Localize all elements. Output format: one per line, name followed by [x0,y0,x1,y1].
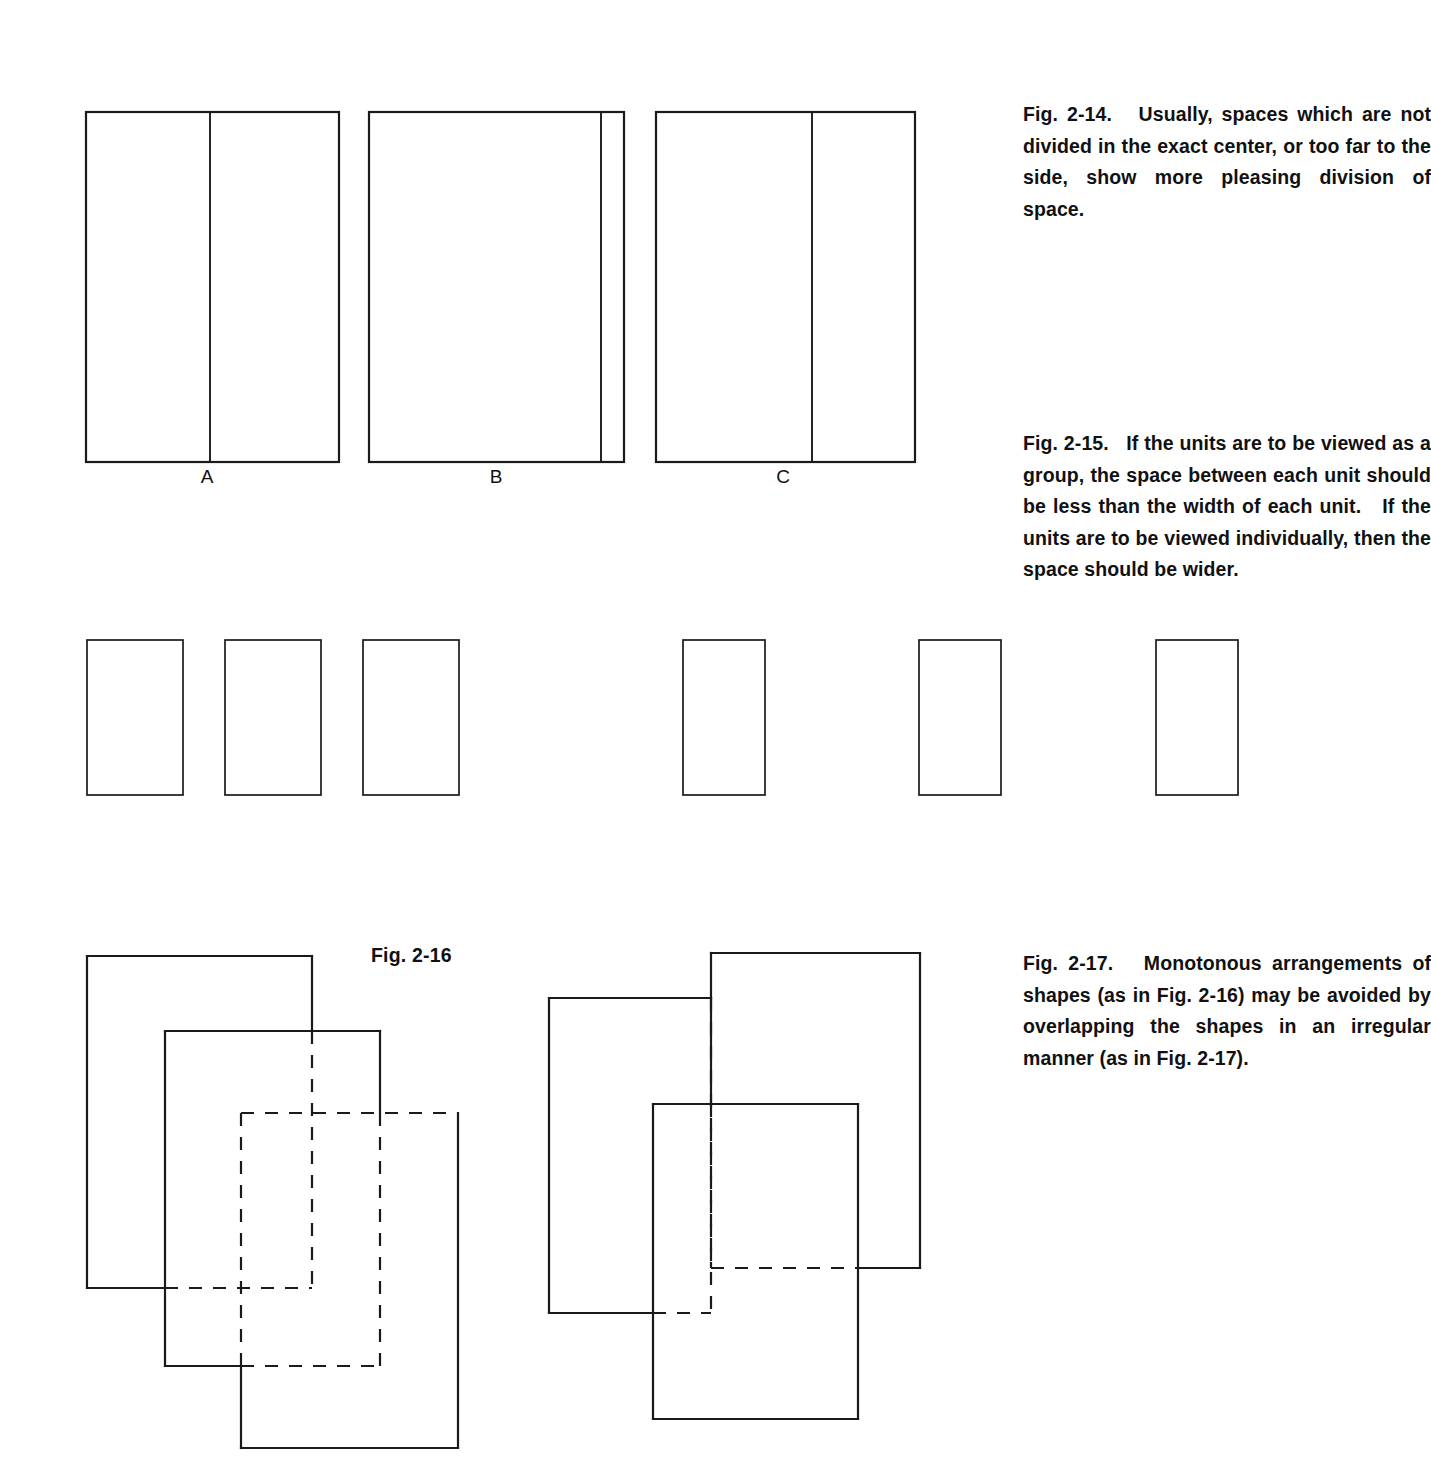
fig-2-15-group-right [683,640,1238,795]
fig-2-15-unit [683,640,765,795]
fig-2-14-label-c: C [763,466,803,488]
fig-2-14-label-b: B [476,466,516,488]
fig-2-16-label: Fig. 2-16 [371,944,452,967]
fig-2-15-unit [919,640,1001,795]
caption-fig-2-15: Fig. 2-15. If the units are to be viewed… [1023,428,1431,586]
fig-2-14-panel-c-rect [656,112,915,462]
fig-2-14-panel-a-rect [86,112,339,462]
caption-fig-2-14: Fig. 2-14. Usually, spaces which are not… [1023,99,1431,225]
fig-2-15-unit [87,640,183,795]
fig-2-15-unit [1156,640,1238,795]
caption-fig-2-17: Fig. 2-17. Monotonous arrangements of sh… [1023,948,1431,1074]
fig-2-14-group [86,112,915,462]
fig-2-15-unit [363,640,459,795]
fig-2-16-group [87,956,458,1448]
fig-2-15-unit [225,640,321,795]
fig-2-15-group-left [87,640,459,795]
fig-2-14-label-a: A [187,466,227,488]
fig-2-17-group [549,953,920,1419]
fig-2-14-panel-b-rect [369,112,624,462]
